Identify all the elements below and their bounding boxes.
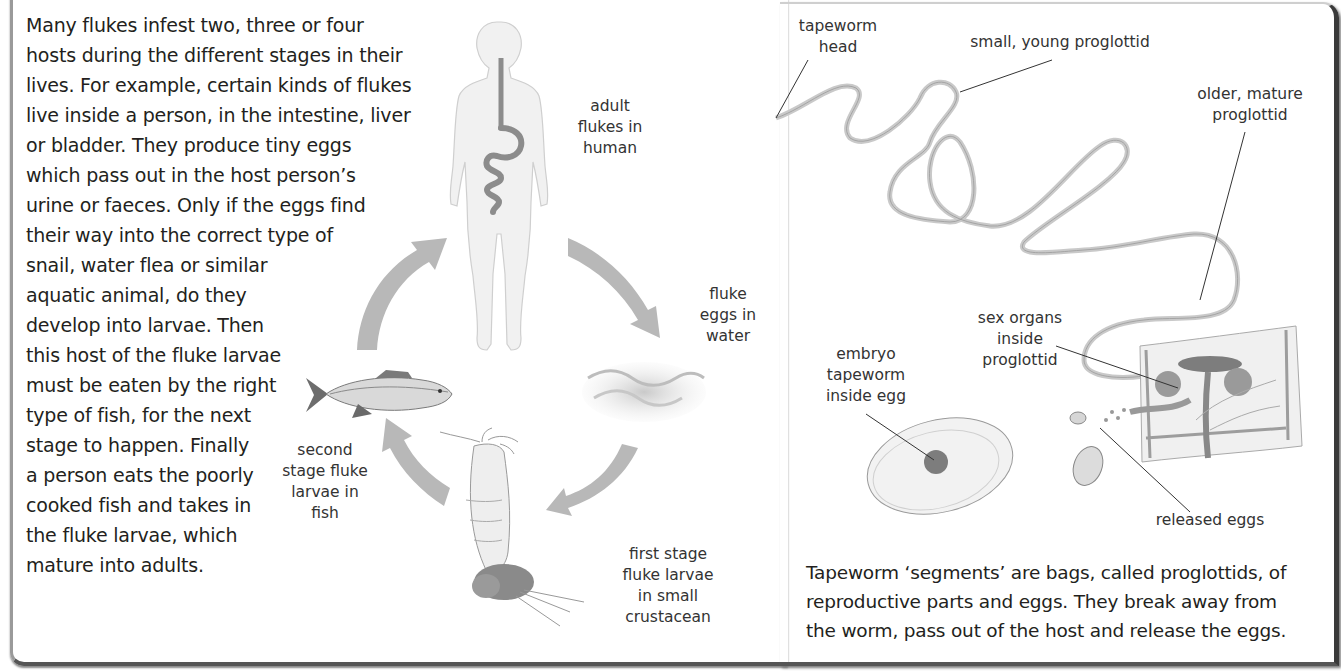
label-released-eggs: released eggs: [1146, 510, 1274, 531]
label-line: proglottid: [1186, 105, 1314, 126]
label-young-proglottid: small, young proglottid: [960, 32, 1160, 53]
label-line: tapeworm: [818, 365, 914, 386]
released-eggs-icon: [1068, 408, 1126, 490]
tapeworm-caption: Tapeworm ‘segments’ are bags, called pro…: [806, 558, 1286, 645]
label-line: adult: [572, 96, 648, 117]
label-tapeworm-head: tapeworm head: [796, 16, 880, 58]
label-line: eggs in: [690, 305, 766, 326]
label-line: inside egg: [818, 386, 914, 407]
proglottid-cutaway-icon: [1130, 326, 1302, 462]
arrow-human-to-water-icon: [568, 238, 660, 338]
label-second-stage-larvae: second stage fluke larvae in fish: [278, 440, 372, 524]
label-first-stage-larvae: first stage fluke larvae in small crusta…: [612, 544, 724, 628]
label-line: older, mature: [1186, 84, 1314, 105]
label-sex-organs: sex organs inside proglottid: [968, 308, 1072, 371]
label-line: sex organs: [968, 308, 1072, 329]
label-line: flukes in: [572, 117, 648, 138]
label-line: water: [690, 326, 766, 347]
label-line: first stage: [612, 544, 724, 565]
tapeworm-egg-icon: [857, 403, 1023, 528]
label-line: human: [572, 138, 648, 159]
label-line: embryo: [818, 344, 914, 365]
label-line: second: [278, 440, 372, 461]
water-waves-icon: [582, 362, 706, 422]
label-line: in small: [612, 586, 724, 607]
label-line: crustacean: [612, 607, 724, 628]
label-mature-proglottid: older, mature proglottid: [1186, 84, 1314, 126]
label-line: small, young proglottid: [960, 32, 1160, 53]
label-line: fluke: [690, 284, 766, 305]
label-line: tapeworm: [796, 16, 880, 37]
label-line: released eggs: [1146, 510, 1274, 531]
label-line: proglottid: [968, 350, 1072, 371]
arrow-crustacean-to-fish-icon: [382, 418, 450, 506]
arrow-water-to-crustacean-icon: [546, 444, 638, 516]
human-body-icon: [450, 22, 548, 350]
label-line: fluke larvae: [612, 565, 724, 586]
label-fluke-eggs-in-water: fluke eggs in water: [690, 284, 766, 347]
label-adult-flukes-in-human: adult flukes in human: [572, 96, 648, 159]
crustacean-icon: [440, 428, 584, 626]
caption-line: Tapeworm ‘segments’ are bags, called pro…: [806, 558, 1286, 587]
label-line: head: [796, 37, 880, 58]
label-line: stage fluke: [278, 461, 372, 482]
label-line: inside: [968, 329, 1072, 350]
caption-line: the worm, pass out of the host and relea…: [806, 616, 1286, 645]
caption-line: reproductive parts and eggs. They break …: [806, 587, 1286, 616]
label-line: fish: [278, 503, 372, 524]
label-embryo-tapeworm: embryo tapeworm inside egg: [818, 344, 914, 407]
label-line: larvae in: [278, 482, 372, 503]
arrow-fish-to-human-icon: [357, 238, 447, 350]
fish-icon: [306, 370, 452, 418]
